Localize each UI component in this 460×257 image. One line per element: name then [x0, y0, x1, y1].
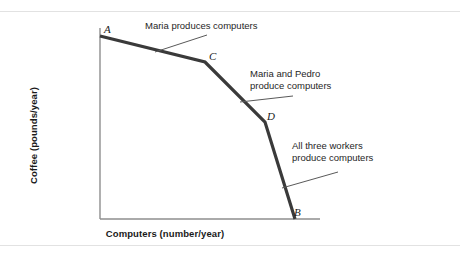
point-label-d: D [267, 110, 275, 122]
annotation-segment-cd: Maria and Pedro produce computers [250, 68, 331, 92]
leader-line-segment-db [282, 172, 338, 188]
ppf-figure: Computers (number/year) Coffee (pounds/y… [0, 0, 460, 257]
leader-line-segment-cd [240, 96, 293, 102]
leader-line-segment-ac [155, 35, 207, 52]
chart-canvas [0, 0, 460, 257]
x-axis-title: Computers (number/year) [0, 228, 330, 239]
point-label-b: B [294, 206, 301, 218]
annotation-segment-ac: Maria produces computers [145, 20, 257, 32]
point-label-c: C [209, 50, 216, 62]
annotation-segment-db: All three workers produce computers [292, 140, 373, 164]
y-axis-title: Coffee (pounds/year) [28, 56, 39, 216]
point-label-a: A [104, 23, 111, 35]
ppf-curve-path [100, 36, 295, 219]
